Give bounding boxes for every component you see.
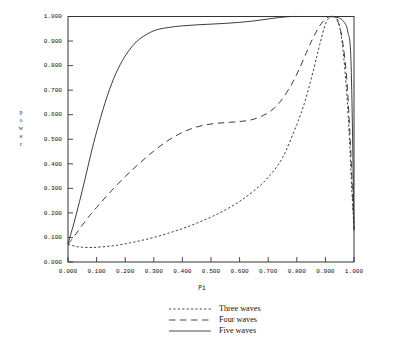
chart-legend: Three waves Four waves Five waves bbox=[168, 303, 358, 336]
legend-swatch-solid bbox=[168, 326, 212, 336]
axis-ticks bbox=[68, 17, 354, 263]
legend-swatch-dotted bbox=[168, 304, 212, 314]
series-line bbox=[68, 16, 354, 244]
plot-area bbox=[0, 0, 404, 345]
legend-label: Three waves bbox=[212, 304, 261, 313]
axes-frame bbox=[68, 17, 354, 263]
legend-swatch-dashed bbox=[168, 315, 212, 325]
legend-item-three-waves: Three waves bbox=[168, 303, 358, 314]
data-curves bbox=[68, 16, 354, 247]
chart-figure: p o w e r 0.000 0.100 0.200 0.300 0.400 … bbox=[0, 0, 404, 345]
legend-item-four-waves: Four waves bbox=[168, 314, 358, 325]
legend-label: Four waves bbox=[212, 315, 257, 324]
legend-label: Five waves bbox=[212, 326, 256, 335]
series-line bbox=[68, 16, 354, 247]
legend-item-five-waves: Five waves bbox=[168, 325, 358, 336]
series-line bbox=[68, 16, 354, 243]
